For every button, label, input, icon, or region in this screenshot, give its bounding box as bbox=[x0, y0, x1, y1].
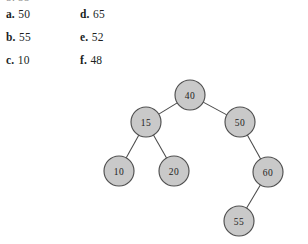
tree-node-15[interactable]: 15 bbox=[131, 107, 161, 137]
tree-node-label-40: 40 bbox=[185, 91, 196, 101]
page-root: b. 55 a.50 b.55 c.10 d.65 e.52 f.48 4015… bbox=[0, 0, 308, 244]
tree-node-55[interactable]: 55 bbox=[224, 206, 254, 236]
tree-node-layer: 40155010206055 bbox=[104, 80, 283, 236]
tree-node-50[interactable]: 50 bbox=[225, 107, 255, 137]
tree-node-20[interactable]: 20 bbox=[159, 156, 189, 186]
tree-node-label-15: 15 bbox=[141, 118, 152, 128]
tree-node-label-55: 55 bbox=[234, 217, 245, 227]
binary-tree-diagram: 40155010206055 bbox=[0, 0, 308, 244]
tree-node-label-10: 10 bbox=[114, 167, 125, 177]
tree-edge-15-10 bbox=[126, 135, 139, 158]
tree-node-label-20: 20 bbox=[169, 167, 180, 177]
tree-edge-60-55 bbox=[247, 185, 261, 208]
tree-edge-15-20 bbox=[153, 135, 166, 158]
tree-edge-40-50 bbox=[203, 102, 227, 115]
tree-node-10[interactable]: 10 bbox=[104, 156, 134, 186]
tree-node-60[interactable]: 60 bbox=[253, 157, 283, 187]
tree-node-label-50: 50 bbox=[235, 118, 246, 128]
tree-edge-50-60 bbox=[247, 135, 260, 159]
tree-node-label-60: 60 bbox=[263, 168, 274, 178]
tree-edge-40-15 bbox=[159, 103, 177, 114]
tree-node-40[interactable]: 40 bbox=[175, 80, 205, 110]
